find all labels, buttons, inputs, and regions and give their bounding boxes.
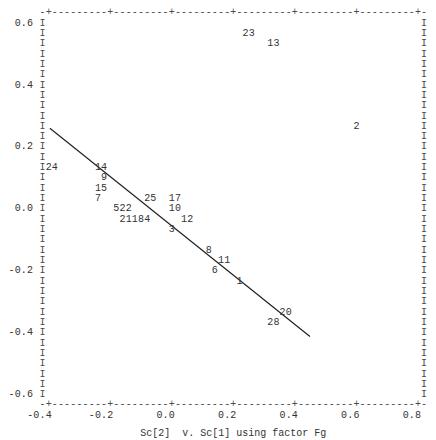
border-top-char: - [156,7,162,18]
y-tick-label: 0.6 [15,18,33,29]
border-top-char: - [218,7,224,18]
border-bottom-char: - [132,399,138,410]
border-bottom-char: - [70,399,76,410]
border-top-char: - [372,7,378,18]
border-top-char: - [181,7,187,18]
factor-score-plot: -+---------+---------+---------+--------… [0,0,436,440]
border-top-char: - [341,7,347,18]
border-top-char: - [212,7,218,18]
border-top-char: - [280,7,286,18]
plot-border: -+---------+---------+---------+--------… [40,7,428,410]
border-top-char: - [64,7,70,18]
border-top-char: - [101,7,107,18]
point-label-3: 3 [169,224,175,235]
point-label-24: 24 [46,162,58,173]
border-bottom-char: - [335,399,341,410]
point-label-8: 8 [206,245,212,256]
y-tick-label: -0.6 [9,389,34,400]
x-tick-label: 0.0 [156,410,174,421]
border-top-char: - [138,7,144,18]
border-top-char: - [58,7,64,18]
border-bottom-char: - [120,399,126,410]
border-bottom-char: - [360,399,366,410]
border-top-char: - [76,7,82,18]
border-top-char: - [409,7,415,18]
border-top-char: - [52,7,58,18]
x-tick-label: 0.6 [341,410,359,421]
border-top-char: + [169,7,175,18]
border-top-char: - [175,7,181,18]
fit-line [50,128,310,336]
border-top-char: - [120,7,126,18]
border-bottom-char: - [273,399,279,410]
border-top-char: - [329,7,335,18]
y-tick-label: -0.4 [9,327,34,338]
border-top-char: - [83,7,89,18]
border-top-char: - [150,7,156,18]
point-label-4: 4 [144,214,150,225]
border-top-char: - [132,7,138,18]
point-label-18: 18 [132,214,144,225]
border-bottom-char: - [113,399,119,410]
border-bottom-char: - [396,399,402,410]
x-tick-label: 0.4 [280,410,298,421]
border-bottom-char: - [236,399,242,410]
x-tick-label: 0.8 [403,410,421,421]
border-top-char: - [113,7,119,18]
border-bottom-char: - [83,399,89,410]
border-top-char: - [366,7,372,18]
border-bottom-char: - [421,399,427,410]
border-right-char: I [421,389,427,400]
border-bottom-char: - [323,399,329,410]
y-tick-label: 0.4 [15,80,33,91]
border-bottom-char: - [255,399,261,410]
border-bottom-char: - [366,399,372,410]
border-top-char: - [267,7,273,18]
border-top-char: - [390,7,396,18]
border-top-char: - [261,7,267,18]
border-top-char: - [310,7,316,18]
x-axis-tick-labels: -0.4-0.20.00.20.40.60.8 [27,410,421,421]
border-bottom-char: - [175,399,181,410]
border-top-char: - [384,7,390,18]
border-bottom-char: - [329,399,335,410]
border-top-char: - [335,7,341,18]
border-bottom-char: - [316,399,322,410]
border-top-char: - [193,7,199,18]
border-bottom-char: - [193,399,199,410]
border-top-char: + [230,7,236,18]
border-bottom-char: - [390,399,396,410]
border-bottom-char: - [261,399,267,410]
border-top-char: - [224,7,230,18]
point-label-25: 25 [144,193,156,204]
point-label-2: 2 [353,121,359,132]
border-top-char: - [163,7,169,18]
point-labels: 231322414915725175221021184123811612028 [46,28,360,328]
border-bottom-char: - [206,399,212,410]
border-top-char: - [396,7,402,18]
border-top-char: - [89,7,95,18]
y-tick-label: 0.2 [15,141,33,152]
border-bottom-char: - [310,399,316,410]
border-bottom-char: - [243,399,249,410]
border-bottom-char: - [58,399,64,410]
border-top-char: - [95,7,101,18]
point-label-11: 11 [218,255,230,266]
border-top-char: - [286,7,292,18]
border-top-char: - [323,7,329,18]
border-bottom-char: - [384,399,390,410]
border-bottom-char: - [200,399,206,410]
y-axis-tick-labels: 0.60.40.20.0-0.2-0.4-0.6 [9,18,34,401]
border-top-char: - [243,7,249,18]
border-top-char: - [347,7,353,18]
border-top-char: + [353,7,359,18]
border-top-char: + [46,7,52,18]
border-top-char: - [236,7,242,18]
x-tick-label: 0.2 [218,410,236,421]
border-top-char: - [206,7,212,18]
y-tick-label: -0.2 [9,265,34,276]
border-top-char: - [200,7,206,18]
border-bottom-char: - [304,399,310,410]
border-top-char: - [316,7,322,18]
x-tick-label: -0.4 [27,410,52,421]
